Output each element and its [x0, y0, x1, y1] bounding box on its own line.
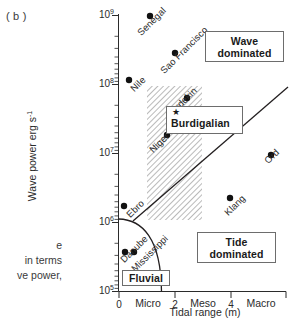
burdigalian-label: Burdigalian	[167, 117, 242, 129]
y-tick-exp-8: 8	[110, 77, 114, 84]
y-axis-title-text: Wave power erg s	[26, 117, 38, 201]
y-axis-title: Wave power erg s-1	[26, 96, 38, 216]
annotation-box-burdigalian: ★ Burdigalian	[166, 106, 243, 134]
x-axis-title: Tidal range (m)	[118, 306, 292, 318]
annotation-box-fluvial: Fluvial	[122, 270, 170, 286]
y-tick-exp-9: 9	[110, 8, 114, 15]
y-tick-label-1e8: 108	[88, 78, 114, 89]
fluvial-label: Fluvial	[129, 272, 163, 284]
tide-dominated-line-2: dominated	[210, 248, 264, 260]
y-tick-exp-6: 6	[110, 215, 114, 222]
annotation-box-wave-dominated: Wave dominated	[205, 31, 284, 62]
wave-dominated-line-2: dominated	[218, 47, 272, 59]
y-tick-label-1e7: 107	[88, 147, 114, 158]
y-tick-exp-7: 7	[110, 146, 114, 153]
y-tick-label-1e9: 109	[88, 9, 114, 20]
annotation-box-tide-dominated: Tide dominated	[197, 232, 276, 263]
y-axis-minor-ticks	[115, 36, 119, 288]
tide-dominated-line-1: Tide	[226, 236, 248, 248]
y-axis-title-exp: -1	[26, 111, 33, 117]
star-icon: ★	[167, 107, 242, 117]
y-tick-label-1e5: 105	[88, 285, 114, 296]
wave-dominated-line-1: Wave	[231, 35, 258, 47]
y-tick-label-1e6: 106	[88, 216, 114, 227]
figure-panel-b: ( b ) e in terms ve power,	[0, 0, 292, 325]
y-tick-exp-5: 5	[110, 284, 114, 291]
